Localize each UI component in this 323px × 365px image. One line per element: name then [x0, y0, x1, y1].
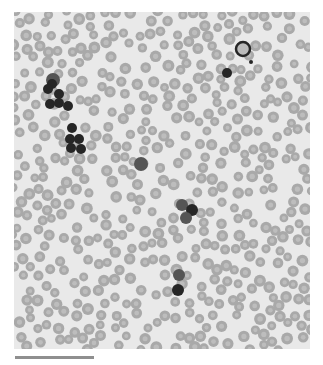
- red-blood-cell-center: [75, 301, 79, 305]
- red-blood-cell-center: [253, 328, 257, 332]
- red-blood-cell-center: [199, 62, 204, 67]
- red-blood-cell-center: [166, 63, 171, 68]
- red-blood-cell-center: [36, 187, 41, 192]
- red-blood-cell-center: [288, 146, 293, 151]
- red-blood-cell-center: [124, 144, 129, 149]
- red-blood-cell-center: [178, 68, 182, 72]
- red-blood-cell-center: [302, 286, 307, 291]
- red-blood-cell-center: [260, 156, 264, 160]
- red-blood-cell-center: [209, 142, 214, 147]
- red-blood-cell-center: [296, 237, 301, 242]
- red-blood-cell-center: [111, 34, 116, 39]
- red-blood-cell-center: [181, 53, 185, 57]
- red-blood-cell-center: [130, 246, 134, 250]
- red-blood-cell-center: [199, 211, 204, 216]
- red-blood-cell-center: [53, 201, 58, 206]
- red-blood-cell-center: [75, 225, 80, 230]
- red-blood-cell-center: [127, 41, 131, 45]
- red-blood-cell-center: [213, 244, 217, 248]
- red-blood-cell-center: [74, 313, 79, 318]
- red-blood-cell-center: [98, 323, 102, 327]
- red-blood-cell-center: [282, 280, 286, 284]
- red-blood-cell-center: [151, 79, 156, 84]
- red-blood-cell-center: [226, 126, 230, 130]
- red-blood-cell-center: [292, 62, 296, 66]
- red-blood-cell-center: [143, 260, 147, 264]
- red-blood-cell-center: [28, 84, 33, 89]
- red-blood-cell-center: [258, 260, 262, 264]
- red-blood-cell-center: [150, 241, 154, 245]
- red-blood-cell-center: [271, 151, 276, 156]
- red-blood-cell-center: [301, 167, 306, 172]
- red-blood-cell-center: [149, 19, 154, 24]
- red-blood-cell-center: [27, 191, 32, 196]
- red-blood-cell-center: [163, 273, 168, 278]
- red-blood-cell-center: [82, 275, 86, 279]
- red-blood-cell-center: [190, 96, 195, 101]
- red-blood-cell-center: [300, 258, 305, 263]
- red-blood-cell-center: [92, 216, 96, 220]
- scale-bar: [15, 356, 94, 359]
- red-blood-cell-center: [93, 133, 98, 138]
- red-blood-cell-center: [121, 116, 126, 121]
- red-blood-cell-center: [154, 293, 158, 297]
- red-blood-cell-center: [31, 125, 36, 130]
- red-blood-cell-center: [187, 336, 192, 341]
- red-blood-cell-center: [128, 276, 133, 281]
- red-blood-cell-center: [35, 298, 40, 303]
- red-blood-cell-center: [206, 261, 211, 266]
- red-blood-cell-center: [83, 125, 88, 130]
- red-blood-cell-center: [210, 177, 215, 182]
- red-blood-cell-center: [59, 188, 63, 192]
- red-blood-cell-center: [257, 316, 262, 321]
- red-blood-cell-center: [36, 273, 41, 278]
- red-blood-cell-center: [72, 330, 77, 335]
- red-blood-cell-center: [45, 60, 50, 65]
- red-blood-cell-center: [134, 301, 139, 306]
- red-blood-cell-center: [143, 229, 148, 234]
- red-blood-cell-center: [112, 232, 116, 236]
- red-blood-cell-center: [150, 129, 154, 133]
- red-blood-cell-center: [53, 291, 57, 295]
- red-blood-cell-center: [256, 129, 260, 133]
- red-blood-cell-center: [237, 233, 242, 238]
- red-blood-cell-center: [267, 285, 272, 290]
- red-blood-cell-center: [178, 334, 182, 338]
- red-blood-cell-center: [70, 71, 74, 75]
- red-blood-cell-center: [275, 53, 280, 58]
- red-blood-cell-center: [219, 287, 224, 292]
- red-blood-cell-center: [44, 323, 48, 327]
- red-blood-cell-center: [83, 289, 88, 294]
- red-blood-cell-center: [304, 229, 309, 234]
- red-blood-cell-center: [264, 85, 268, 89]
- red-blood-cell-center: [271, 115, 276, 120]
- red-blood-cell-center: [114, 326, 118, 330]
- white-blood-cell: [249, 60, 253, 64]
- red-blood-cell-center: [127, 107, 132, 112]
- red-blood-cell-center: [28, 308, 32, 312]
- red-blood-cell-center: [113, 295, 117, 299]
- red-blood-cell-center: [187, 114, 192, 119]
- red-blood-cell-center: [201, 166, 206, 171]
- red-blood-cell-center: [251, 221, 255, 225]
- red-blood-cell-center: [181, 103, 186, 108]
- red-blood-cell-center: [193, 255, 197, 259]
- red-blood-cell-center: [28, 265, 32, 269]
- red-blood-cell-center: [195, 190, 199, 194]
- red-blood-cell-center: [202, 229, 207, 234]
- red-blood-cell-center: [54, 302, 59, 307]
- red-blood-cell-center: [278, 249, 282, 253]
- red-blood-cell-center: [172, 81, 177, 86]
- red-blood-cell-center: [276, 261, 281, 266]
- red-blood-cell-center: [77, 156, 82, 161]
- red-blood-cell-center: [183, 151, 188, 156]
- red-blood-cell-center: [110, 110, 114, 114]
- red-blood-cell-center: [186, 39, 191, 44]
- red-blood-cell-center: [284, 294, 289, 299]
- red-blood-cell-center: [87, 238, 92, 243]
- red-blood-cell-center: [86, 99, 90, 103]
- red-blood-cell-center: [212, 277, 217, 282]
- red-blood-cell-center: [250, 174, 255, 179]
- red-blood-cell-center: [103, 301, 107, 305]
- red-blood-cell-center: [138, 198, 143, 203]
